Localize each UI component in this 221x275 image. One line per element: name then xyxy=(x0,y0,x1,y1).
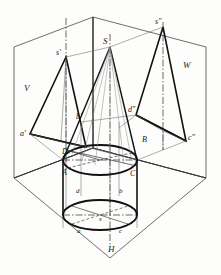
label-d-top: d xyxy=(76,188,80,195)
cone-slant-right xyxy=(110,47,137,160)
side-projection-cone xyxy=(136,27,186,141)
projection-diagram: V W H s' S s″ a' b' d″ c″ D A C B d b a … xyxy=(0,0,221,275)
label-a-top: a xyxy=(77,228,81,235)
plane-v-label: V xyxy=(24,84,30,93)
plane-w-label: W xyxy=(183,61,191,70)
front-cone-base-diagonals xyxy=(30,57,86,147)
ref-apex-front-to-space xyxy=(66,47,110,57)
reference-lines xyxy=(30,27,186,228)
label-c-top: c xyxy=(119,228,122,235)
label-C-space: C xyxy=(130,170,135,178)
label-d-side: d″ xyxy=(128,106,135,114)
label-A-space: A xyxy=(62,169,67,177)
label-b-top: b xyxy=(119,188,123,195)
front-projection-cone xyxy=(30,57,86,147)
space-cone xyxy=(63,47,137,175)
label-apex-front: s' xyxy=(56,49,61,57)
plane-h-label: H xyxy=(108,245,115,254)
front-cone-axis-edge xyxy=(61,57,66,140)
cone-base-diagonals xyxy=(66,150,137,166)
label-apex-space: S xyxy=(103,37,108,46)
label-a-front: a' xyxy=(20,130,26,138)
side-cone-outline xyxy=(136,27,186,141)
centre-lines xyxy=(63,18,163,246)
label-B-space: B xyxy=(142,136,147,144)
label-apex-side: s″ xyxy=(155,18,161,26)
label-D-space: D xyxy=(62,148,68,156)
front-cone-outline xyxy=(30,57,86,147)
ref-apex-space-to-side xyxy=(110,27,163,47)
label-b-front: b' xyxy=(76,113,82,121)
label-s-top: s xyxy=(99,216,102,223)
label-c-side: c″ xyxy=(188,134,195,142)
